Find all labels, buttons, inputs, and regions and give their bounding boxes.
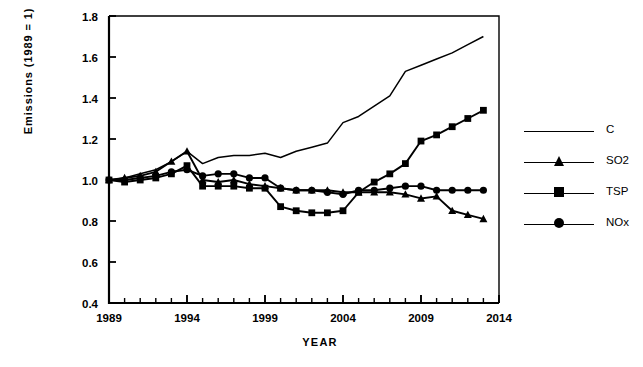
axis-frame (109, 16, 499, 303)
x-tick-label: 2009 (408, 312, 434, 324)
circle-marker (183, 166, 190, 173)
circle-marker (308, 187, 315, 194)
square-marker (480, 107, 487, 114)
y-tick-label: 1.6 (82, 52, 98, 64)
series-c (109, 37, 483, 181)
circle-marker-icon (554, 218, 564, 228)
square-marker (277, 203, 284, 210)
y-tick-label: 0.4 (82, 298, 99, 310)
circle-marker (121, 176, 128, 183)
legend-item-tsp: TSP (524, 179, 634, 210)
circle-marker (230, 170, 237, 177)
legend-item-c: C (524, 117, 634, 148)
square-marker (386, 170, 393, 177)
circle-marker (339, 191, 346, 198)
square-marker (199, 183, 206, 190)
square-marker (230, 183, 237, 190)
legend-line-swatch-icon (524, 131, 594, 132)
square-marker (418, 138, 425, 145)
triangle-marker (183, 147, 191, 154)
y-tick-label: 1.0 (82, 175, 98, 187)
triangle-marker (167, 157, 175, 164)
x-axis-title: YEAR (240, 336, 400, 348)
square-marker (464, 115, 471, 122)
x-tick-label: 1994 (174, 312, 200, 324)
square-marker-icon (554, 187, 564, 197)
legend-label: NOx (606, 216, 629, 228)
circle-marker (168, 168, 175, 175)
square-marker (324, 209, 331, 216)
square-marker (449, 123, 456, 130)
y-tick-label: 0.6 (82, 257, 98, 269)
x-tick-label: 2014 (486, 312, 512, 324)
square-marker (246, 185, 253, 192)
y-tick-label-group: 0.40.60.81.01.21.41.61.8 (82, 11, 99, 310)
legend-label: TSP (606, 185, 628, 197)
circle-marker (480, 187, 487, 194)
x-tick-label-group: 198919941999200420092014 (96, 312, 512, 324)
circle-marker (402, 183, 409, 190)
legend-item-so2: SO2 (524, 148, 634, 179)
circle-marker (355, 187, 362, 194)
y-tick-label: 1.8 (82, 11, 99, 23)
series-nox (105, 166, 487, 198)
circle-marker (433, 187, 440, 194)
circle-marker (199, 172, 206, 179)
circle-marker (293, 187, 300, 194)
circle-marker (449, 187, 456, 194)
series-tsp (106, 107, 487, 216)
circle-marker (417, 183, 424, 190)
circle-marker (464, 187, 471, 194)
square-marker (402, 160, 409, 167)
y-tick-label: 1.4 (82, 93, 99, 105)
x-tick-label: 1989 (96, 312, 122, 324)
y-tick-label: 1.2 (82, 134, 98, 146)
circle-marker (246, 174, 253, 181)
circle-marker (137, 174, 144, 181)
circle-marker (105, 176, 112, 183)
circle-marker (261, 174, 268, 181)
legend-item-nox: NOx (524, 210, 634, 241)
x-tick-label: 2004 (330, 312, 356, 324)
square-marker (371, 179, 378, 186)
square-marker (262, 185, 269, 192)
circle-marker (324, 189, 331, 196)
square-marker (308, 209, 315, 216)
circle-marker (152, 172, 159, 179)
circle-marker (371, 187, 378, 194)
data-series-group (105, 37, 487, 223)
x-tick-label: 1999 (252, 312, 278, 324)
circle-marker (277, 185, 284, 192)
square-marker (433, 132, 440, 139)
circle-marker (386, 185, 393, 192)
legend-label: C (606, 123, 614, 135)
triangle-marker-icon (554, 156, 564, 166)
square-marker (293, 207, 300, 214)
chart-figure: Emissions (1989 = 1) 0.40.60.81.01.21.41… (0, 0, 643, 367)
circle-marker (215, 170, 222, 177)
chart-legend: C SO2 TSP NOx (524, 117, 634, 241)
square-marker (215, 183, 222, 190)
y-tick-label: 0.8 (82, 216, 99, 228)
square-marker (340, 207, 347, 214)
legend-label: SO2 (606, 154, 629, 166)
